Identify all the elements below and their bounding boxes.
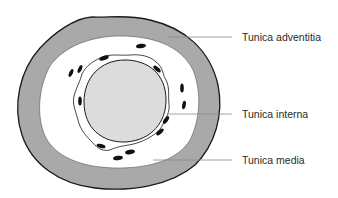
lumen [84,60,166,142]
label-tunica-adventitia: Tunica adventitia [242,31,321,43]
label-tunica-interna: Tunica interna [242,108,308,120]
artery-cross-section-diagram [0,0,338,198]
label-tunica-media: Tunica media [242,154,305,166]
